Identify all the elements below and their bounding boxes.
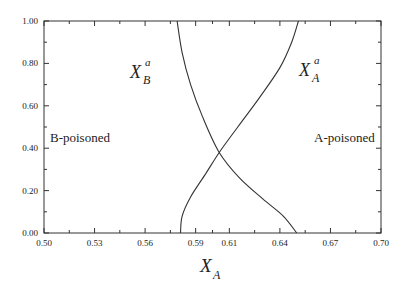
plot-curves bbox=[177, 21, 298, 233]
y-tick-label: 1.00 bbox=[22, 16, 38, 26]
svg-text:X: X bbox=[298, 60, 311, 80]
svg-text:A: A bbox=[212, 268, 221, 282]
xa-curve-label: X a A bbox=[298, 54, 320, 85]
x-tick-label: 0.50 bbox=[36, 238, 52, 248]
b-poisoned-label: B-poisoned bbox=[50, 130, 110, 145]
x-axis-title: X A bbox=[199, 255, 221, 282]
svg-text:B: B bbox=[143, 73, 151, 87]
y-tick-label: 0.40 bbox=[22, 143, 38, 153]
x-tick-label: 0.56 bbox=[137, 238, 153, 248]
plot-frame bbox=[44, 21, 381, 233]
x-tick-label: 0.53 bbox=[87, 238, 103, 248]
phase-diagram-chart: 0.500.530.560.590.610.640.670.700.000.20… bbox=[0, 0, 407, 288]
svg-text:A: A bbox=[311, 71, 320, 85]
xb-curve-label: X a B bbox=[129, 56, 151, 87]
svg-text:a: a bbox=[314, 54, 320, 66]
xa-curve bbox=[180, 21, 298, 233]
x-tick-label: 0.67 bbox=[323, 238, 339, 248]
a-poisoned-label: A-poisoned bbox=[314, 130, 375, 145]
svg-text:a: a bbox=[145, 56, 151, 68]
y-tick-label: 0.00 bbox=[22, 228, 38, 238]
xb-curve bbox=[177, 21, 297, 233]
y-tick-label: 0.20 bbox=[22, 186, 38, 196]
y-tick-label: 0.60 bbox=[22, 101, 38, 111]
svg-text:X: X bbox=[199, 255, 213, 276]
x-tick-label: 0.61 bbox=[221, 238, 237, 248]
svg-text:X: X bbox=[129, 62, 142, 82]
x-tick-label: 0.59 bbox=[188, 238, 204, 248]
x-tick-label: 0.64 bbox=[272, 238, 288, 248]
x-tick-label: 0.70 bbox=[373, 238, 389, 248]
y-tick-label: 0.80 bbox=[22, 58, 38, 68]
